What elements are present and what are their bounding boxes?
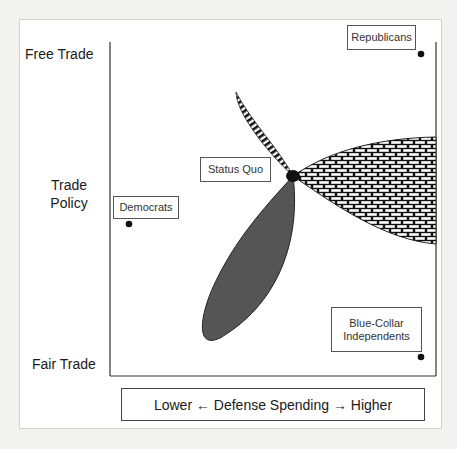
republicans-label: Republicans <box>347 25 416 50</box>
trade-policy-line2: Policy <box>45 194 93 212</box>
democrats-point <box>126 221 133 228</box>
brick-win-set <box>293 137 436 244</box>
democrats-label: Democrats <box>113 196 179 219</box>
fair-trade-label: Fair Trade <box>32 355 96 373</box>
blue-collar-point <box>418 354 425 361</box>
dark-win-set <box>202 176 294 340</box>
x-axis-legend: Lower ← Defense Spending → Higher <box>121 388 425 421</box>
status-quo-label: Status Quo <box>200 157 271 182</box>
blue-collar-label: Blue-Collar Independents <box>331 307 422 352</box>
free-trade-label: Free Trade <box>25 45 93 63</box>
trade-policy-label: Trade Policy <box>45 176 93 212</box>
republicans-point <box>418 51 425 58</box>
blue-collar-line2: Independents <box>343 330 410 343</box>
plot-area <box>0 0 457 449</box>
status-quo-point <box>286 170 300 182</box>
trade-policy-line1: Trade <box>45 176 93 194</box>
blue-collar-line1: Blue-Collar <box>349 317 403 330</box>
